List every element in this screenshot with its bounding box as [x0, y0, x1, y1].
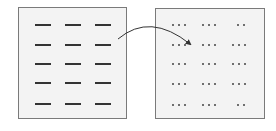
dot — [178, 104, 180, 106]
dash-mark — [95, 82, 111, 84]
dash-mark — [35, 63, 51, 65]
dash-mark — [65, 44, 81, 46]
dot — [202, 104, 204, 106]
dash-mark — [95, 24, 111, 26]
dot — [202, 24, 204, 26]
dash-mark — [35, 103, 51, 105]
dot — [238, 44, 240, 46]
dot — [184, 24, 186, 26]
dot — [178, 24, 180, 26]
dash-mark — [65, 63, 81, 65]
dot-grid-panel — [155, 8, 265, 119]
dot — [232, 44, 234, 46]
dash-mark — [65, 103, 81, 105]
dot — [214, 104, 216, 106]
dash-mark — [35, 82, 51, 84]
dot — [172, 83, 174, 85]
dot — [202, 63, 204, 65]
dash-mark — [35, 24, 51, 26]
dot — [237, 104, 239, 106]
dot — [208, 44, 210, 46]
dot — [208, 104, 210, 106]
dot — [184, 83, 186, 85]
dash-mark — [95, 103, 111, 105]
dash-mark — [65, 82, 81, 84]
dot — [202, 83, 204, 85]
dot — [184, 104, 186, 106]
dot — [214, 24, 216, 26]
dash-grid-panel — [18, 7, 127, 119]
dot — [237, 24, 239, 26]
dot — [172, 24, 174, 26]
dash-mark — [35, 44, 51, 46]
dot — [184, 63, 186, 65]
dot — [243, 24, 245, 26]
dot — [214, 63, 216, 65]
dot — [232, 63, 234, 65]
dot — [184, 44, 186, 46]
dot — [244, 83, 246, 85]
dot — [178, 83, 180, 85]
dot — [238, 83, 240, 85]
dot — [202, 44, 204, 46]
dot — [208, 24, 210, 26]
dot — [214, 44, 216, 46]
dot — [244, 44, 246, 46]
dot — [208, 63, 210, 65]
dot — [178, 44, 180, 46]
dot — [178, 63, 180, 65]
dot — [214, 83, 216, 85]
dot — [208, 83, 210, 85]
dot — [243, 104, 245, 106]
dot — [172, 44, 174, 46]
dot — [232, 83, 234, 85]
dash-mark — [65, 24, 81, 26]
dash-mark — [95, 63, 111, 65]
dot — [172, 63, 174, 65]
dot — [244, 63, 246, 65]
dot — [172, 104, 174, 106]
dash-mark — [95, 44, 111, 46]
dot — [238, 63, 240, 65]
